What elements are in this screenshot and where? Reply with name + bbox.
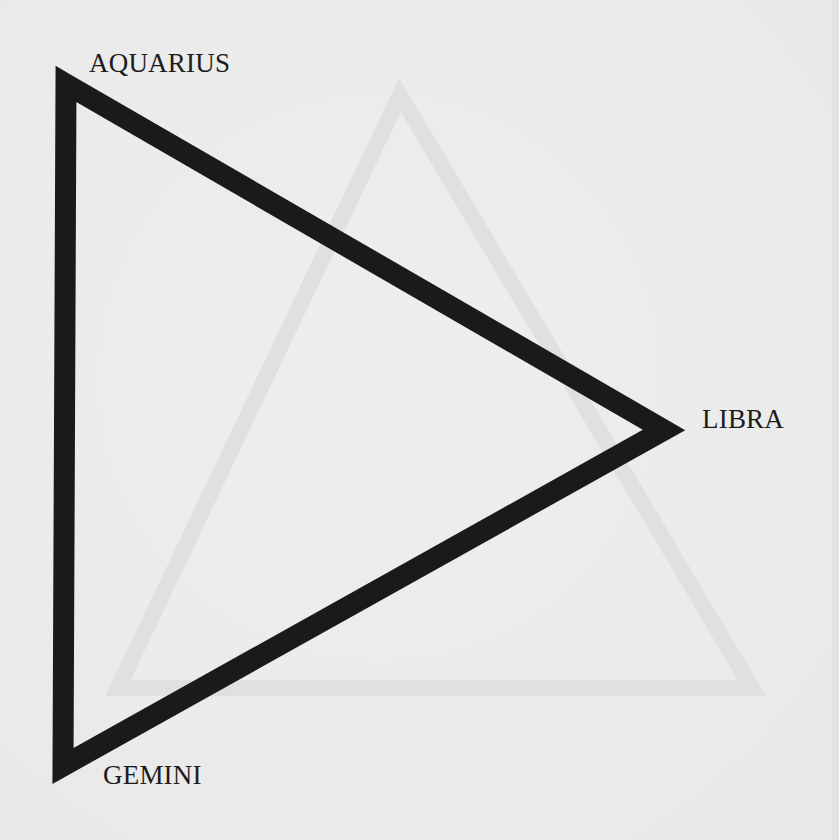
vertex-label-gemini: GEMINI [103,762,202,789]
vertex-label-aquarius: AQUARIUS [89,50,230,77]
bleed-through-triangle [118,95,752,688]
vertex-label-libra: LIBRA [702,406,784,433]
